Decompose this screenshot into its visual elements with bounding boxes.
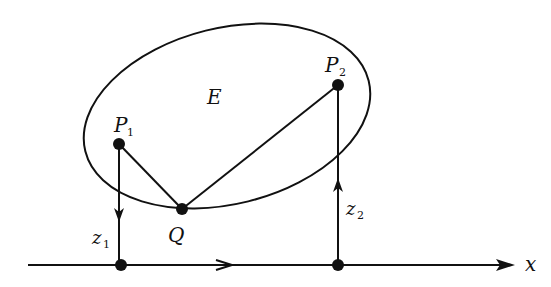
region-ellipse — [64, 0, 390, 237]
region-label: E — [206, 85, 222, 109]
label-p2-sub: 2 — [339, 66, 346, 79]
label-p2: P — [324, 53, 339, 77]
diagram-canvas: E P 1 P 2 Q z 1 z 2 x — [0, 0, 551, 287]
point-p2 — [332, 79, 344, 91]
label-p1: P — [113, 113, 128, 137]
point-p1 — [113, 138, 125, 150]
segment-q-p2 — [182, 85, 338, 209]
label-p1-sub: 1 — [127, 126, 134, 139]
label-z2: z — [345, 198, 356, 219]
axis-point-2 — [332, 259, 344, 271]
x-axis-label: x — [525, 252, 536, 276]
label-z1-sub: 1 — [103, 238, 110, 251]
label-q: Q — [168, 223, 184, 247]
label-z2-sub: 2 — [357, 209, 364, 222]
point-q — [176, 203, 188, 215]
axis-point-1 — [115, 259, 127, 271]
label-z1: z — [91, 227, 102, 248]
segment-p1-q — [119, 144, 182, 209]
